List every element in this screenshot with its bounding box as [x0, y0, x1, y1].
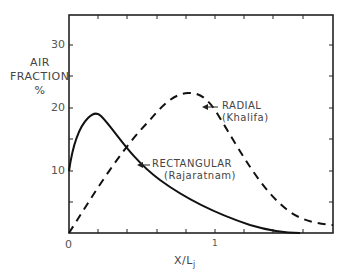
- y-axis-label: AIR FRACTION %: [18, 56, 62, 98]
- radial-sublabel: (Khalifa): [222, 112, 269, 124]
- radial-arrow-icon: [202, 104, 208, 110]
- y-tick-30: 30: [51, 38, 65, 51]
- x-tick-1: 1: [212, 238, 218, 248]
- rect-sublabel: (Rajaratnam): [152, 170, 236, 182]
- y-axis-label-line3: %: [18, 84, 62, 98]
- x-tick-0: 0: [65, 238, 72, 251]
- radial-annotation: RADIAL (Khalifa): [222, 100, 269, 124]
- x-axis-label: X/Lj: [174, 254, 196, 269]
- rect-label: RECTANGULAR: [152, 158, 236, 170]
- x-ticks: [98, 15, 303, 233]
- rect-annotation: RECTANGULAR (Rajaratnam): [152, 158, 236, 182]
- y-tick-20: 20: [51, 101, 65, 114]
- y-axis-label-line2: FRACTION: [10, 70, 62, 84]
- y-tick-10: 10: [51, 164, 65, 177]
- radial-label: RADIAL: [222, 100, 269, 112]
- y-axis-label-line1: AIR: [18, 56, 62, 70]
- x-axis-label-main: X/L: [174, 254, 193, 267]
- x-axis-label-sub: j: [193, 260, 196, 269]
